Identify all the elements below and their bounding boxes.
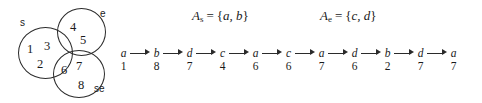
- sequence-node-number: 1: [121, 59, 127, 73]
- sequence-node-letter: b: [154, 47, 160, 59]
- set-name-a-s: A: [192, 8, 200, 23]
- sequence-node-letter: a: [253, 47, 259, 59]
- region-circle-e: [57, 8, 106, 56]
- arrow-head-icon: [310, 49, 315, 55]
- sequence-arrow: [261, 47, 283, 59]
- set-definition-as: As={a, b}: [192, 9, 249, 24]
- arrow-head-icon: [178, 49, 183, 55]
- sequence-arrow: [195, 47, 217, 59]
- set-name-a-e: A: [320, 8, 328, 23]
- sequence-node-letter: c: [220, 47, 225, 59]
- sequence-node-number: 7: [187, 59, 193, 73]
- sequence-node: a7: [448, 47, 459, 73]
- region-label-se: se: [94, 84, 105, 94]
- sequence-node-letter: a: [451, 47, 457, 59]
- set-definition-ae: Ae={c, d}: [320, 9, 377, 24]
- sequence-node-number: 4: [220, 59, 226, 73]
- sequence-arrow: [294, 47, 316, 59]
- arrow-head-icon: [244, 49, 249, 55]
- sequence-node: c6: [283, 47, 294, 73]
- region-element-8: 8: [78, 79, 84, 92]
- sequence-arrow: [228, 47, 250, 59]
- sequence-node-number: 2: [385, 59, 391, 73]
- sequence-node-letter: d: [418, 47, 424, 59]
- sequence-node-letter: d: [187, 47, 193, 59]
- brace-close-s: }: [243, 8, 249, 23]
- region-element-6: 6: [61, 64, 67, 77]
- sequence-node-number: 8: [154, 59, 160, 73]
- region-element-3: 3: [44, 40, 50, 53]
- region-element-5: 5: [80, 34, 86, 47]
- sequence-arrow: [162, 47, 184, 59]
- sequence-node: c4: [217, 47, 228, 73]
- sequence-node-number: 7: [451, 59, 457, 73]
- sequence-node-number: 6: [286, 59, 292, 73]
- sequence-node-letter: c: [286, 47, 291, 59]
- sequence-arrow: [426, 47, 448, 59]
- set-definitions: As={a, b} Ae={c, d}: [192, 7, 472, 29]
- region-label-e: e: [100, 9, 106, 19]
- sequence-node-letter: d: [352, 47, 358, 59]
- arrow-head-icon: [211, 49, 216, 55]
- sequence-node: a1: [118, 47, 129, 73]
- sequence-node-number: 7: [319, 59, 325, 73]
- sequence-node-number: 7: [418, 59, 424, 73]
- sequence-arrow: [129, 47, 151, 59]
- arrow-head-icon: [343, 49, 348, 55]
- equals-sign-e: =: [332, 8, 345, 23]
- sequence-node: d6: [349, 47, 360, 73]
- figure-root: s e se 1 3 2 4 5 6 7 8 As={a, b} Ae={c, …: [0, 0, 482, 103]
- sequence-node: a6: [250, 47, 261, 73]
- set-members-e: c, d: [352, 8, 371, 23]
- sequence-node-letter: a: [121, 47, 127, 59]
- region-label-s: s: [20, 18, 25, 28]
- region-element-1: 1: [27, 43, 33, 56]
- sequence-arrow: [327, 47, 349, 59]
- arrow-head-icon: [442, 49, 447, 55]
- arrow-head-icon: [145, 49, 150, 55]
- brace-close-e: }: [370, 8, 376, 23]
- sequence-node-letter: b: [385, 47, 391, 59]
- region-element-2: 2: [37, 58, 43, 71]
- sequence-node: a7: [316, 47, 327, 73]
- region-element-4: 4: [70, 21, 76, 34]
- sequence-node-number: 6: [352, 59, 358, 73]
- sequence-node: d7: [415, 47, 426, 73]
- region-element-7: 7: [76, 60, 82, 73]
- sequence-arrow: [393, 47, 415, 59]
- arrow-head-icon: [409, 49, 414, 55]
- set-members-s: a, b: [223, 8, 243, 23]
- sequence-node-number: 6: [253, 59, 259, 73]
- sequence-arrow: [360, 47, 382, 59]
- sequence-node: b2: [382, 47, 393, 73]
- sequence-node: b8: [151, 47, 162, 73]
- sequence-node-letter: a: [319, 47, 325, 59]
- sequence-node: d7: [184, 47, 195, 73]
- sequence-chain: a1b8d7c4a6c6a7d6b2d7a7: [118, 47, 459, 81]
- equals-sign-s: =: [203, 8, 216, 23]
- arrow-head-icon: [376, 49, 381, 55]
- arrow-head-icon: [277, 49, 282, 55]
